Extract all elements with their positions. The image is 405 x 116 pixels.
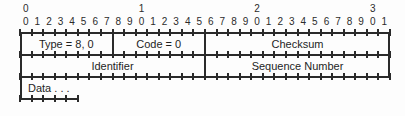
bit-ruler-unit-22: 2 [274, 15, 286, 28]
bit-ruler-unit-10: 0 [136, 15, 148, 28]
bit-ruler-unit-7: 7 [101, 15, 113, 28]
bit-ruler-unit-5: 5 [78, 15, 90, 28]
bit-ruler-decade-3: 3 [367, 2, 379, 15]
bit-ruler-decade-2: 2 [251, 2, 263, 15]
bit-ruler-unit-11: 1 [147, 15, 159, 28]
bit-ruler-unit-30: 0 [367, 15, 379, 28]
bit-ruler-unit-17: 7 [217, 15, 229, 28]
bit-ruler: 0123 01234567890123456789012345678901 [20, 2, 390, 30]
bit-ruler-unit-18: 8 [228, 15, 240, 28]
bit-ruler-unit-9: 9 [124, 15, 136, 28]
bit-ruler-unit-21: 1 [263, 15, 275, 28]
bit-ruler-unit-26: 6 [321, 15, 333, 28]
field-type-8-0: Type = 8, 0 [20, 33, 113, 55]
field-code-0: Code = 0 [113, 33, 206, 55]
bit-ruler-unit-27: 7 [332, 15, 344, 28]
bit-ruler-unit-0: 0 [20, 15, 32, 28]
bit-ruler-unit-4: 4 [66, 15, 78, 28]
bit-ruler-unit-2: 2 [43, 15, 55, 28]
bit-ruler-unit-23: 3 [286, 15, 298, 28]
bit-ruler-unit-13: 3 [170, 15, 182, 28]
bit-ruler-unit-31: 1 [378, 15, 390, 28]
bit-ruler-decades-row: 0123 [20, 2, 390, 15]
bit-ruler-unit-8: 8 [113, 15, 125, 28]
field-checksum: Checksum [205, 33, 390, 55]
bit-ruler-unit-14: 4 [182, 15, 194, 28]
bit-ruler-unit-20: 0 [251, 15, 263, 28]
bit-ruler-unit-3: 3 [55, 15, 67, 28]
bit-ruler-unit-1: 1 [32, 15, 44, 28]
bit-ruler-units-row: 01234567890123456789012345678901 [20, 15, 390, 28]
field-identifier: Identifier [20, 55, 205, 77]
bit-ruler-unit-19: 9 [240, 15, 252, 28]
bit-ruler-decade-1: 1 [136, 2, 148, 15]
bit-ruler-decade-0: 0 [20, 2, 32, 15]
bit-ruler-unit-16: 6 [205, 15, 217, 28]
bit-ruler-unit-25: 5 [309, 15, 321, 28]
field-data: Data . . . [28, 77, 390, 99]
packet-header-diagram: 0123 01234567890123456789012345678901 Ty… [0, 0, 405, 116]
bit-ruler-unit-28: 8 [344, 15, 356, 28]
bit-ruler-unit-12: 2 [159, 15, 171, 28]
bit-ruler-unit-15: 5 [193, 15, 205, 28]
field-sequence-number: Sequence Number [205, 55, 390, 77]
bit-ruler-unit-29: 9 [355, 15, 367, 28]
bit-ruler-unit-24: 4 [298, 15, 310, 28]
bit-ruler-unit-6: 6 [89, 15, 101, 28]
